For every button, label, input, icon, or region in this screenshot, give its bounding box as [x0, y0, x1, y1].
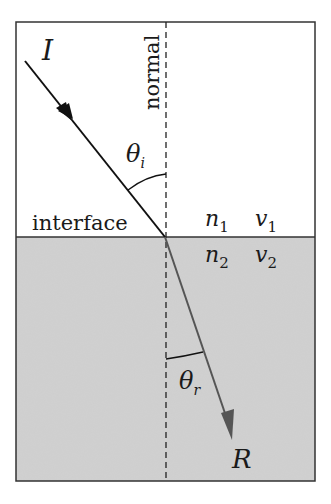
interface-label: interface — [32, 211, 128, 235]
incident-ray-label: I — [41, 34, 54, 67]
normal-label: normal — [140, 34, 164, 110]
refracted-ray-label: R — [231, 444, 252, 474]
refraction-diagram: I R normal interface θi θr n1 v1 n2 v2 — [0, 0, 331, 504]
